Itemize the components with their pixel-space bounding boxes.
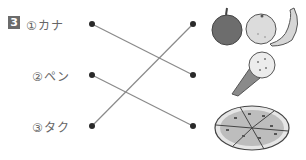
fruits-picture — [210, 4, 306, 48]
apple-icon — [212, 8, 242, 45]
right-dot-1[interactable] — [190, 21, 196, 27]
pizza-picture — [212, 103, 292, 155]
ice-cream-picture — [230, 50, 280, 100]
orange-icon — [246, 14, 276, 44]
left-dot-1[interactable] — [89, 21, 95, 27]
left-dot-3[interactable] — [89, 123, 95, 129]
connection-line-1 — [92, 24, 193, 75]
connection-line-3 — [92, 24, 193, 126]
connection-line-2 — [92, 75, 193, 126]
right-dot-3[interactable] — [190, 123, 196, 129]
pizza-icon — [215, 106, 289, 150]
left-dot-2[interactable] — [89, 72, 95, 78]
ice-cream-icon — [232, 52, 275, 96]
right-dot-2[interactable] — [190, 72, 196, 78]
